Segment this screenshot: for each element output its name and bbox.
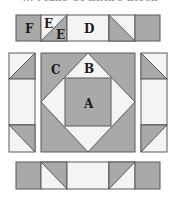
right-rect (141, 79, 167, 125)
label-e-top: E (44, 17, 53, 31)
left-rect (9, 79, 35, 125)
label-e-bottom: E (56, 28, 65, 42)
label-f: F (25, 22, 34, 36)
right-border-strip (141, 53, 167, 152)
label-b: B (84, 62, 94, 76)
quilt-block-diagram: F E E D C B A (0, 0, 180, 201)
bottom-rect (67, 162, 109, 189)
label-c: C (51, 63, 61, 77)
bottom-left-square (16, 162, 41, 189)
label-a: A (83, 97, 94, 111)
top-right-square (135, 15, 160, 41)
bottom-right-square (135, 162, 160, 189)
label-d: D (84, 22, 94, 36)
left-border-strip (9, 53, 35, 152)
bottom-border-strip (16, 162, 160, 189)
